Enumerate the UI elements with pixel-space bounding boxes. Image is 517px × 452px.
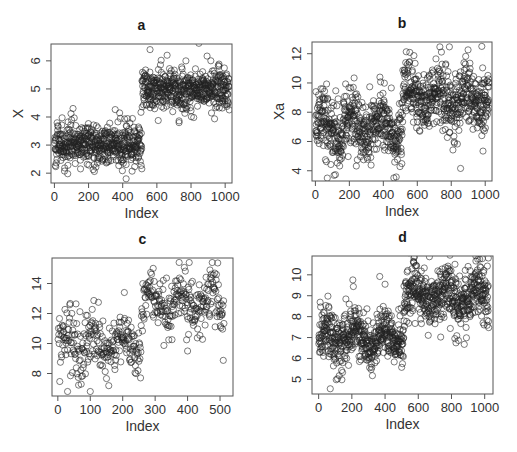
x-tick-label: 0 (51, 189, 58, 204)
y-tick-label: 6 (28, 57, 43, 64)
y-tick-label: 7 (289, 334, 304, 341)
y-tick-label: 2 (28, 170, 43, 177)
panel-title: a (138, 17, 146, 33)
x-axis-label: Index (124, 205, 158, 221)
panel-a: a0200400600800100023456IndexX (10, 17, 240, 221)
figure: a0200400600800100023456IndexX b020040060… (0, 0, 517, 452)
x-tick-label: 1000 (470, 400, 499, 415)
y-tick-label: 6 (289, 138, 304, 145)
x-tick-label: 800 (441, 400, 463, 415)
scatter-points (316, 247, 492, 392)
y-tick-label: 4 (28, 113, 43, 120)
scatter-points (55, 259, 227, 411)
x-tick-label: 1000 (471, 187, 500, 202)
scatter-points (51, 40, 232, 182)
y-tick-label: 8 (29, 370, 44, 377)
x-tick-label: 400 (372, 187, 394, 202)
x-tick-label: 800 (440, 187, 462, 202)
x-tick-label: 600 (407, 400, 429, 415)
x-tick-label: 200 (341, 400, 363, 415)
y-tick-label: 12 (29, 306, 44, 320)
x-tick-label: 200 (339, 187, 361, 202)
x-tick-label: 600 (146, 189, 168, 204)
panel-b: b020040060080010004681012IndexXa (271, 15, 500, 219)
x-tick-label: 800 (180, 189, 202, 204)
x-axis-label: Index (125, 418, 159, 434)
y-tick-label: 6 (289, 355, 304, 362)
x-tick-label: 300 (144, 402, 166, 417)
x-tick-label: 400 (112, 189, 134, 204)
x-tick-label: 0 (312, 187, 319, 202)
panel-d: d020040060080010005678910Index (289, 229, 499, 432)
x-tick-label: 200 (78, 189, 100, 204)
x-tick-label: 400 (374, 400, 396, 415)
y-tick-label: 8 (289, 109, 304, 116)
panel-title: d (398, 229, 407, 245)
x-tick-label: 100 (79, 402, 101, 417)
y-tick-label: 3 (28, 141, 43, 148)
y-tick-label: 10 (29, 336, 44, 350)
x-tick-label: 0 (315, 400, 322, 415)
y-tick-label: 9 (289, 292, 304, 299)
x-tick-label: 200 (112, 402, 134, 417)
x-tick-label: 500 (209, 402, 231, 417)
panel-c: c01002003004005008101214Index (29, 231, 233, 434)
x-tick-label: 1000 (211, 189, 240, 204)
x-axis-label: Index (385, 203, 419, 219)
y-tick-label: 10 (289, 268, 304, 282)
x-tick-label: 400 (177, 402, 199, 417)
y-tick-label: 4 (289, 167, 304, 174)
y-tick-label: 10 (289, 76, 304, 90)
y-tick-label: 5 (289, 376, 304, 383)
y-tick-label: 12 (289, 46, 304, 60)
y-axis-label: Xa (271, 103, 287, 120)
y-tick-label: 8 (289, 313, 304, 320)
panel-title: c (139, 231, 147, 247)
x-tick-label: 600 (406, 187, 428, 202)
y-axis-label: X (10, 108, 26, 118)
x-tick-label: 0 (54, 402, 61, 417)
y-tick-label: 5 (28, 85, 43, 92)
y-tick-label: 14 (29, 276, 44, 290)
x-axis-label: Index (385, 416, 419, 432)
panel-title: b (398, 15, 407, 31)
